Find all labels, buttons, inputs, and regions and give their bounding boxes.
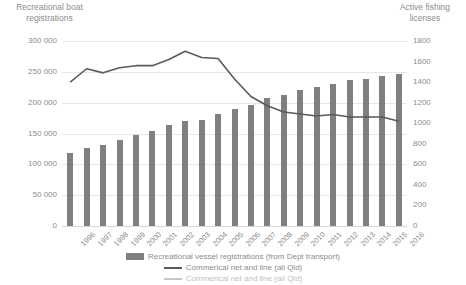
x-axis-label: 2013 — [358, 230, 376, 248]
legend-label: Commerical net and line (all Qld) — [186, 263, 303, 272]
x-axis-label: 1996 — [79, 230, 97, 248]
x-axis-label: 2010 — [309, 230, 327, 248]
left-axis-tick: 250 000 — [0, 67, 57, 76]
right-axis-tick: 200 — [413, 200, 466, 209]
right-axis-tick: 1400 — [413, 77, 466, 86]
right-axis-tick: 1800 — [413, 36, 466, 45]
x-axis-label: 2006 — [243, 230, 261, 248]
x-axis-label: 2011 — [325, 230, 343, 248]
x-axis-label: 2014 — [375, 230, 393, 248]
right-axis-title: Active fishing licenses — [386, 2, 464, 24]
legend-label: Commerical net and line (all Qld) — [186, 274, 303, 283]
legend-item: Recreational vessel registrations (from … — [126, 252, 340, 261]
x-axis-label: 2005 — [227, 230, 245, 248]
x-axis-label: 2000 — [145, 230, 163, 248]
right-axis-tick: 1000 — [413, 118, 466, 127]
x-axis-label: 1997 — [96, 230, 114, 248]
left-axis-tick: 300 000 — [0, 36, 57, 45]
legend-item: Commerical net and line (all Qld) — [164, 263, 303, 272]
line-path — [70, 51, 399, 121]
x-axis-label: 2003 — [194, 230, 212, 248]
x-axis-label: 2007 — [260, 230, 278, 248]
gridline — [62, 226, 407, 227]
legend-bar-swatch-icon — [126, 253, 144, 260]
legend-line-swatch-icon — [164, 278, 182, 280]
x-axis-label: 2016 — [408, 230, 426, 248]
right-axis-tick: 0 — [413, 221, 466, 230]
left-axis-tick: 0 — [0, 221, 57, 230]
chart-container: Recreational boat registrations Active f… — [0, 0, 466, 285]
left-axis-tick: 200 000 — [0, 98, 57, 107]
right-axis-tick: 400 — [413, 180, 466, 189]
x-axis-label: 2008 — [276, 230, 294, 248]
line-series — [62, 41, 407, 226]
left-axis-tick: 50 000 — [0, 190, 57, 199]
x-axis-label: 1998 — [112, 230, 130, 248]
x-axis-label: 2004 — [211, 230, 229, 248]
x-axis-label: 2015 — [391, 230, 409, 248]
x-axis-label: 2012 — [342, 230, 360, 248]
x-axis-label: 2001 — [161, 230, 179, 248]
left-axis-tick: 100 000 — [0, 159, 57, 168]
legend-label: Recreational vessel registrations (from … — [148, 252, 340, 261]
x-axis-label: 2002 — [178, 230, 196, 248]
right-axis-tick: 1600 — [413, 57, 466, 66]
x-axis-label: 2009 — [293, 230, 311, 248]
right-axis-tick: 600 — [413, 159, 466, 168]
left-axis-tick: 150 000 — [0, 129, 57, 138]
left-axis-title: Recreational boat registrations — [2, 2, 97, 24]
right-axis-tick: 800 — [413, 139, 466, 148]
right-axis-tick: 1200 — [413, 98, 466, 107]
legend-line-swatch-icon — [164, 267, 182, 269]
x-axis-label: 1999 — [128, 230, 146, 248]
plot-area — [62, 41, 407, 226]
chart-legend: Recreational vessel registrations (from … — [0, 252, 466, 283]
legend-item: Commerical net and line (all Qld) — [164, 274, 303, 283]
